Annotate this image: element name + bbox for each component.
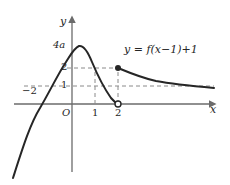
- x-tick-label-1: 1: [92, 108, 98, 118]
- y-tick-label-1: 1: [61, 80, 67, 90]
- y-tick-label-2: 2: [61, 62, 67, 72]
- x-intercept-label: −2: [22, 86, 37, 96]
- origin-label: O: [62, 108, 70, 118]
- x-tick-label-2: 2: [115, 108, 121, 118]
- math-graph-figure: y x O 1 2 1 2 4a −2 y = f(x−1)+1: [0, 0, 230, 185]
- y-axis-label: y: [60, 16, 66, 27]
- x-axis-label: x: [210, 104, 216, 115]
- filled-point-marker: [115, 65, 121, 71]
- peak-value-label: 4a: [53, 40, 65, 50]
- decay-branch-curve: [118, 68, 214, 88]
- equation-label: y = f(x−1)+1: [124, 44, 198, 55]
